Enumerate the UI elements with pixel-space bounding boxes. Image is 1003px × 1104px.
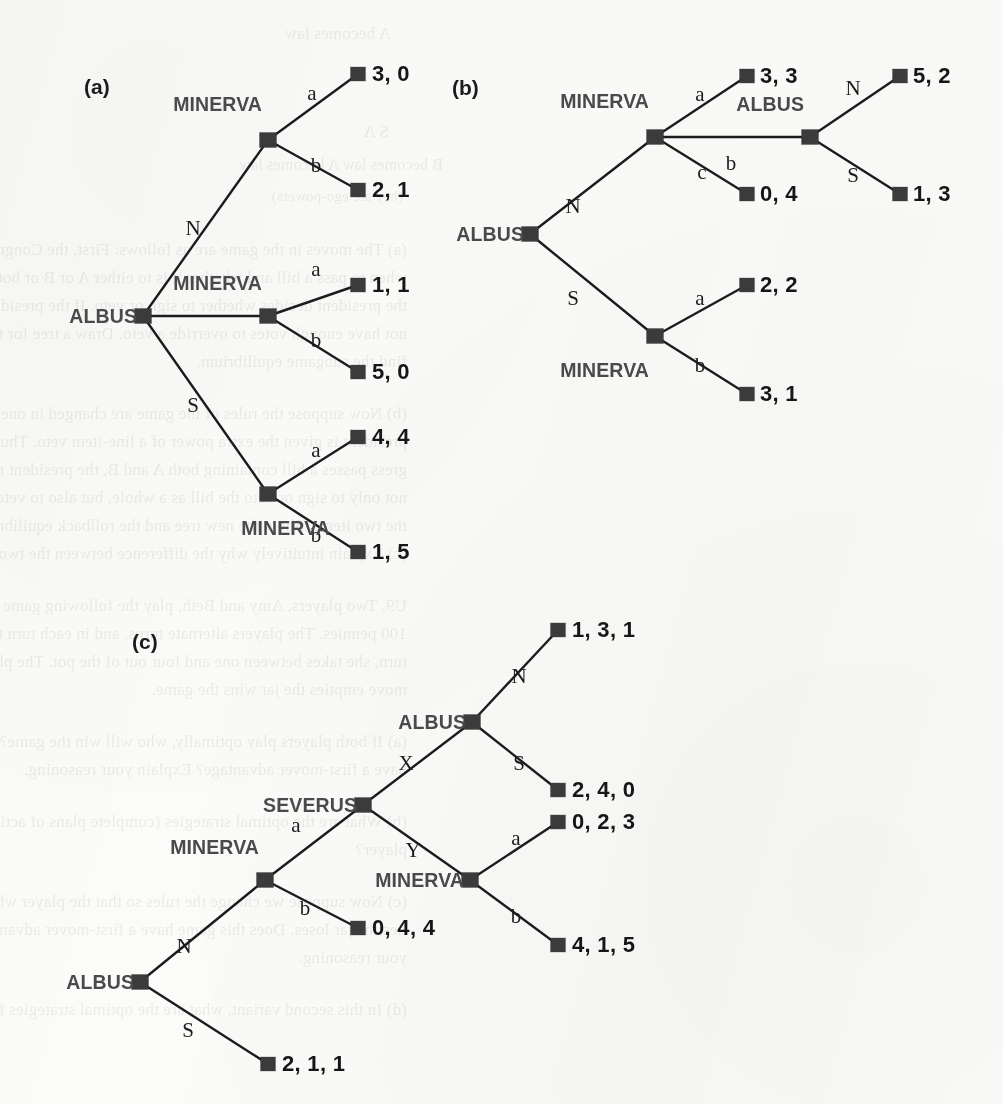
edge-label: b xyxy=(311,153,322,178)
decision-node xyxy=(522,227,539,242)
payoff-label: 0, 4, 4 xyxy=(372,915,435,941)
payoff-label: 0, 4 xyxy=(760,181,798,207)
payoff-label: 4, 1, 5 xyxy=(572,932,635,958)
bleedthrough-line: move empties the jar wins the game. xyxy=(151,680,407,700)
payoff-label: 1, 3 xyxy=(913,181,951,207)
decision-node xyxy=(260,487,277,502)
decision-node xyxy=(260,133,277,148)
player-label: MINERVA xyxy=(173,272,262,295)
payoff-label: 2, 1 xyxy=(372,177,410,203)
edge-label: X xyxy=(398,751,413,776)
terminal-node xyxy=(351,183,366,197)
player-label: MINERVA xyxy=(560,359,649,382)
edge-label: c xyxy=(697,160,706,185)
player-label: MINERVA xyxy=(560,90,649,113)
tree-edge xyxy=(530,137,655,234)
edge-label: a xyxy=(307,81,316,106)
panel-tag: (b) xyxy=(452,76,479,100)
edge-label: S xyxy=(567,286,579,311)
edge-label: S xyxy=(187,393,199,418)
edge-label: b xyxy=(300,896,311,921)
payoff-label: 3, 1 xyxy=(760,381,798,407)
bleedthrough-line: (a) If both players play optimally, who … xyxy=(0,732,407,752)
tree-edge xyxy=(140,982,268,1064)
bleedthrough-line: ties the jar loses. Does this game have … xyxy=(0,920,407,940)
bleedthrough-line: 100 pennies. The players alternate turns… xyxy=(0,624,407,644)
terminal-node xyxy=(740,187,755,201)
edge-label: a xyxy=(511,826,520,851)
bleedthrough-line: president is given the extra power of a … xyxy=(0,432,407,452)
terminal-node xyxy=(351,365,366,379)
tree-edge xyxy=(530,234,655,336)
decision-node xyxy=(647,329,664,344)
decision-node xyxy=(355,798,372,813)
payoff-label: 3, 0 xyxy=(372,61,410,87)
terminal-node xyxy=(351,545,366,559)
bleedthrough-line: turn, she takes between one and four out… xyxy=(0,652,407,672)
terminal-node xyxy=(740,69,755,83)
decision-node xyxy=(132,975,149,990)
player-label: ALBUS xyxy=(66,971,134,994)
bleedthrough-line: (c) Explain intuitively why the differen… xyxy=(0,544,407,564)
player-label: SEVERUS xyxy=(263,794,357,817)
payoff-label: 2, 4, 0 xyxy=(572,777,635,803)
player-label: MINERVA xyxy=(173,93,262,116)
edge-label: b xyxy=(311,328,322,353)
bleedthrough-line: have a first-mover advantage? Explain yo… xyxy=(24,760,407,780)
edge-label: N xyxy=(565,194,580,219)
payoff-label: 1, 3, 1 xyxy=(572,617,635,643)
bleedthrough-line: U9. Two players, Amy and Beth, play the … xyxy=(0,596,407,616)
terminal-node xyxy=(551,623,566,637)
terminal-node xyxy=(893,187,908,201)
decision-node xyxy=(647,130,664,145)
terminal-node xyxy=(740,278,755,292)
edge-label: a xyxy=(695,286,704,311)
bleedthrough-line: the two items. Show the new tree and the… xyxy=(0,516,407,536)
edge-label: N xyxy=(185,216,200,241)
terminal-node xyxy=(351,430,366,444)
edge-label: b xyxy=(726,151,737,176)
payoff-label: 5, 2 xyxy=(913,63,951,89)
edge-label: b xyxy=(695,353,706,378)
bleedthrough-line: (b) Now suppose the rules of the game ar… xyxy=(0,404,407,424)
edge-label: a xyxy=(311,438,320,463)
terminal-node xyxy=(351,921,366,935)
player-label: ALBUS xyxy=(69,305,137,328)
edge-label: N xyxy=(845,76,860,101)
decision-node xyxy=(135,309,152,324)
tree-edge xyxy=(265,880,358,928)
player-label: MINERVA xyxy=(375,869,464,892)
edge-label: S xyxy=(182,1018,194,1043)
edge-label: b xyxy=(511,904,522,929)
decision-node xyxy=(257,873,274,888)
panel-tag: (c) xyxy=(132,630,158,654)
terminal-node xyxy=(551,815,566,829)
payoff-label: 1, 5 xyxy=(372,539,410,565)
payoff-label: 4, 4 xyxy=(372,424,410,450)
terminal-node xyxy=(551,783,566,797)
edge-label: a xyxy=(695,82,704,107)
tree-edge xyxy=(140,880,265,982)
player-label: MINERVA xyxy=(170,836,259,859)
bleedthrough-line: B becomes law A becomes law xyxy=(239,156,443,174)
terminal-node xyxy=(261,1057,276,1071)
player-label: ALBUS xyxy=(456,223,524,246)
terminal-node xyxy=(893,69,908,83)
edge-label: N xyxy=(511,664,526,689)
player-label: ALBUS xyxy=(398,711,466,734)
payoff-label: 2, 1, 1 xyxy=(282,1051,345,1077)
tree-edge xyxy=(143,316,268,494)
payoff-label: 5, 0 xyxy=(372,359,410,385)
terminal-node xyxy=(551,938,566,952)
edge-label: S xyxy=(847,163,859,188)
edge-label: N xyxy=(176,934,191,959)
panel-tag: (a) xyxy=(84,75,110,99)
bleedthrough-line: (a) The moves in the game are as follows… xyxy=(0,240,407,260)
tree-edge xyxy=(268,285,358,316)
bleedthrough-line: S A xyxy=(363,122,389,142)
decision-node xyxy=(802,130,819,145)
bleedthrough-line: (d) In this second variant, what are the… xyxy=(0,1000,407,1020)
bleedthrough-line: your reasoning. xyxy=(298,948,407,968)
bleedthrough-line: gress passes a bill containing both A an… xyxy=(0,460,407,480)
terminal-node xyxy=(351,278,366,292)
